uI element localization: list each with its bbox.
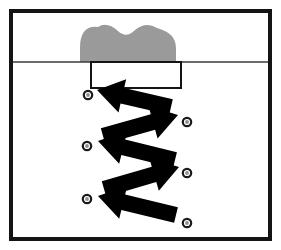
figure-canvas [0,0,281,250]
circle-marker-core-marker-6 [185,221,189,225]
circle-marker-core-marker-3 [85,144,89,148]
circle-marker-core-marker-5 [85,197,89,201]
circle-marker-core-marker-1 [86,93,90,97]
circle-marker-core-marker-4 [185,171,189,175]
white-rectangle-slab [91,62,181,88]
circle-marker-core-marker-2 [185,120,189,124]
diagram-svg [0,0,281,250]
